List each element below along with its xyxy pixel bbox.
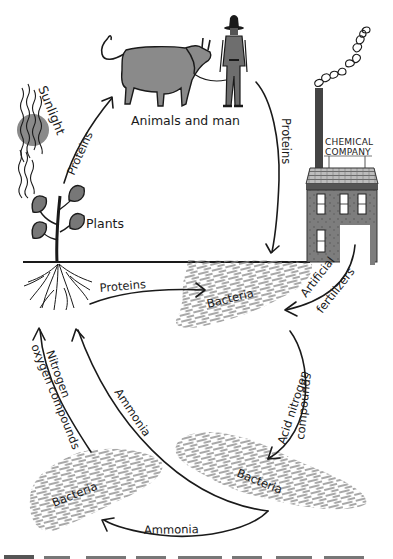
nitrogen-cycle-diagram: Sunlight Plants: [0, 0, 393, 559]
plants-label: Plants: [86, 216, 124, 231]
company-sign-line1: CHEMICAL: [325, 137, 373, 147]
proteins-label-animals-bacteria: Proteins: [279, 118, 293, 164]
ammonia-label-bottom: Ammonia: [144, 522, 199, 537]
ammonia-label-diagonal: Ammonia: [112, 386, 154, 439]
animals-and-man-label: Animals and man: [131, 113, 240, 128]
bacteria-right-blob: [175, 432, 366, 509]
proteins-label-plants-animals: Proteins: [64, 129, 96, 177]
plant-icon: [24, 186, 92, 310]
arrow-animals-to-bacteria: [256, 82, 279, 253]
farmer-icon: [220, 15, 247, 106]
caption-cutoff: [4, 555, 364, 559]
company-sign-line2: COMPANY: [325, 147, 371, 157]
cow-icon: [102, 36, 226, 106]
